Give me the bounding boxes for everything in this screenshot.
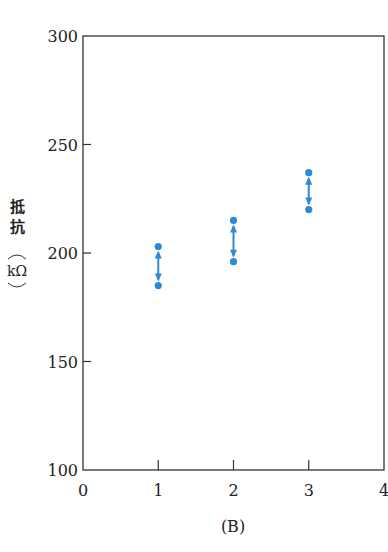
x-tick-label: 1 [153, 481, 163, 500]
x-axis-ticks: 01234 [78, 460, 388, 500]
data-point-low [230, 258, 237, 265]
figure-caption: (B) [221, 517, 245, 536]
paren-bottom [8, 283, 26, 287]
arrow-down-icon [155, 274, 162, 282]
paren-top [8, 255, 26, 259]
arrow-down-icon [230, 250, 237, 258]
y-tick-label: 200 [47, 244, 78, 263]
x-tick-label: 2 [228, 481, 238, 500]
y-axis-title: 抵抗kΩ [7, 198, 27, 287]
y-tick-label: 250 [47, 136, 78, 155]
y-tick-label: 150 [47, 353, 78, 372]
data-point-low [305, 206, 312, 213]
y-axis-title-char: 抵 [10, 198, 25, 216]
data-point-high [230, 217, 237, 224]
range-marker [305, 169, 312, 213]
data-point-high [305, 169, 312, 176]
arrow-up-icon [230, 224, 237, 232]
data-point-low [155, 282, 162, 289]
range-marker [230, 217, 237, 265]
y-tick-label: 100 [47, 461, 78, 480]
x-tick-label: 3 [304, 481, 314, 500]
y-axis-ticks: 100150200250300 [47, 27, 91, 480]
y-tick-label: 300 [47, 27, 78, 46]
range-marker [155, 243, 162, 289]
x-tick-label: 0 [78, 481, 88, 500]
arrow-up-icon [155, 250, 162, 258]
data-points [155, 169, 313, 289]
resistance-chart: 100150200250300 01234 抵抗kΩ (B) [0, 0, 388, 552]
y-axis-title-char: 抗 [10, 218, 25, 236]
y-axis-unit: kΩ [7, 263, 27, 279]
arrow-down-icon [305, 198, 312, 206]
data-point-high [155, 243, 162, 250]
x-tick-label: 4 [379, 481, 388, 500]
arrow-up-icon [305, 177, 312, 185]
